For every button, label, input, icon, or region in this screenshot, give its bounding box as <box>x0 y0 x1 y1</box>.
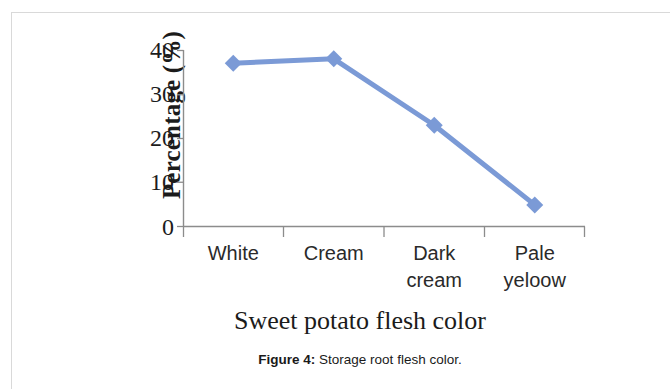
x-tick-label-line2: yeloow <box>485 267 586 294</box>
x-tick-label: White <box>183 240 284 302</box>
figure-caption: Figure 4: Storage root flesh color. <box>120 352 600 367</box>
x-tick-label: Cream <box>284 240 385 302</box>
x-axis-title: Sweet potato flesh color <box>120 306 600 336</box>
y-tick-label: 20 <box>134 126 174 150</box>
figure-caption-text: Storage root flesh color. <box>315 352 461 367</box>
data-series-line <box>233 59 535 205</box>
x-tick-label-line2: cream <box>384 267 485 294</box>
plot-area <box>183 50 585 227</box>
figure-caption-label: Figure 4: <box>258 352 315 367</box>
x-tick-label: Dark cream <box>384 240 485 302</box>
x-axis-tick-labels: White Cream Dark cream Pale yeloow <box>183 240 585 302</box>
x-tick-label-line1: White <box>208 242 259 264</box>
x-tick-label: Pale yeloow <box>485 240 586 302</box>
data-series-markers <box>225 50 544 213</box>
y-tick-label: 0 <box>134 215 174 239</box>
figure-container: Percentage (%) 40 30 20 10 0 <box>0 0 670 389</box>
y-tick-label: 10 <box>134 170 174 194</box>
y-tick-label: 40 <box>134 38 174 62</box>
chart-canvas <box>183 50 585 227</box>
y-tick-label: 30 <box>134 82 174 106</box>
x-tick-label-line1: Dark <box>413 242 455 264</box>
x-tick-label-line1: Cream <box>304 242 364 264</box>
x-tick-label-line1: Pale <box>515 242 555 264</box>
data-point-marker <box>225 55 242 72</box>
